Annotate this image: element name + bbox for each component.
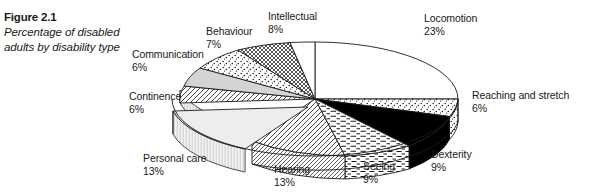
- slice-label-intellectual-pct: 8%: [268, 23, 317, 36]
- slice-label-hearing-name: Hearing: [274, 163, 310, 176]
- slice-label-seeing-pct: 9%: [363, 173, 395, 186]
- slice-label-behaviour-name: Behaviour: [206, 25, 252, 38]
- slice-label-hearing-pct: 13%: [274, 176, 310, 189]
- slice-label-personal-care-pct: 13%: [143, 165, 206, 178]
- slice-label-seeing-name: Seeing: [363, 160, 395, 173]
- slice-label-continence: Continence 6%: [129, 90, 181, 115]
- slice-label-continence-pct: 6%: [129, 103, 181, 116]
- slice-label-behaviour: Behaviour 7%: [206, 25, 252, 50]
- slice-label-dexterity-name: Dexterity: [431, 148, 472, 161]
- slice-label-dexterity: Dexterity 9%: [431, 148, 472, 173]
- slice-top-locomotion: [315, 42, 458, 99]
- pie-chart: Locomotion 23% Reaching and stretch 6% D…: [0, 0, 594, 192]
- slice-label-communication-name: Communication: [132, 48, 204, 61]
- slice-label-continence-name: Continence: [129, 90, 181, 103]
- slice-label-reaching-and-stretch-pct: 6%: [472, 102, 569, 115]
- slice-label-communication-pct: 6%: [132, 61, 204, 74]
- slice-label-communication: Communication 6%: [132, 48, 204, 73]
- slice-label-personal-care-name: Personal care: [143, 152, 206, 165]
- slice-label-intellectual-name: Intellectual: [268, 10, 317, 23]
- slice-label-intellectual: Intellectual 8%: [268, 10, 317, 35]
- slice-label-reaching-and-stretch-name: Reaching and stretch: [472, 89, 569, 102]
- slice-label-locomotion-pct: 23%: [424, 25, 477, 38]
- slice-label-behaviour-pct: 7%: [206, 38, 252, 51]
- slice-label-locomotion-name: Locomotion: [424, 12, 477, 25]
- slice-label-locomotion: Locomotion 23%: [424, 12, 477, 37]
- slice-label-personal-care: Personal care 13%: [143, 152, 206, 177]
- slice-label-reaching-and-stretch: Reaching and stretch 6%: [472, 89, 569, 114]
- slice-label-seeing: Seeing 9%: [363, 160, 395, 185]
- slice-label-hearing: Hearing 13%: [274, 163, 310, 188]
- slice-label-dexterity-pct: 9%: [431, 161, 472, 174]
